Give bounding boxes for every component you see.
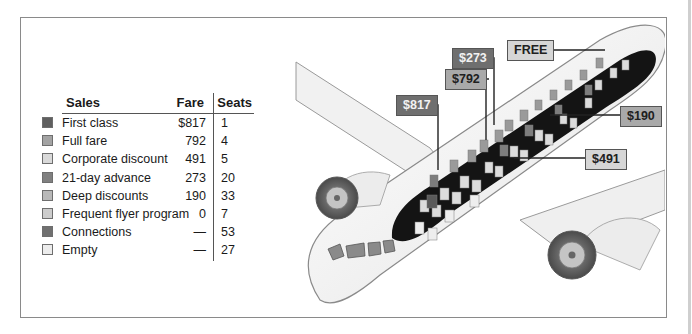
legend-row: First class $817 1: [40, 114, 254, 132]
row-label: Empty: [62, 243, 97, 257]
row-seats: 33: [221, 189, 235, 203]
swatch-connections-icon: [42, 226, 53, 237]
row-seats: 7: [221, 207, 228, 221]
swatch-21-day-advance-icon: [42, 172, 53, 183]
row-label: 21-day advance: [62, 171, 151, 185]
row-fare: 792: [185, 134, 206, 148]
legend-header-row: Sales Fare Seats: [62, 93, 254, 114]
legend-row: Corporate discount 491 5: [40, 150, 254, 168]
row-seats: 27: [221, 243, 235, 257]
row-seats: 53: [221, 225, 235, 239]
row-label: Deep discounts: [62, 189, 148, 203]
row-label: Frequent flyer program: [62, 207, 189, 221]
callout-21-day-advance: $273: [452, 48, 494, 69]
header-fare: Fare: [177, 95, 204, 110]
row-label: Corporate discount: [62, 152, 168, 166]
row-fare: 491: [185, 152, 206, 166]
swatch-empty-icon: [42, 244, 53, 255]
row-seats: 20: [221, 171, 235, 185]
legend-row: Frequent flyer program 0 7: [40, 205, 254, 223]
swatch-deep-discounts-icon: [42, 190, 53, 201]
legend-row: Deep discounts 190 33: [40, 187, 254, 205]
callout-first-class: $817: [396, 95, 438, 116]
swatch-first-class-icon: [42, 117, 53, 128]
header-seats: Seats: [217, 95, 252, 110]
callout-deep-discounts: $190: [620, 106, 662, 127]
row-fare: —: [194, 225, 207, 239]
callout-corporate-discount: $491: [585, 149, 627, 170]
swatch-frequent-flyer-icon: [42, 208, 53, 219]
legend-row: Full fare 792 4: [40, 132, 254, 150]
callout-full-fare: $792: [445, 69, 487, 90]
legend-row: Connections — 53: [40, 223, 254, 241]
row-seats: 1: [221, 116, 228, 130]
sales-legend-table: Sales Fare Seats First class $817 1 Full…: [40, 93, 254, 260]
legend-row: Empty — 27: [40, 241, 254, 259]
legend-row: 21-day advance 273 20: [40, 169, 254, 187]
header-sales: Sales: [66, 95, 100, 110]
row-fare: 190: [185, 189, 206, 203]
row-fare: 0: [199, 207, 206, 221]
callout-frequent-flyer-free: FREE: [507, 40, 554, 61]
row-fare: $817: [178, 116, 206, 130]
row-label: First class: [62, 116, 118, 130]
swatch-corporate-discount-icon: [42, 153, 53, 164]
row-seats: 5: [221, 152, 228, 166]
swatch-full-fare-icon: [42, 135, 53, 146]
row-label: Connections: [62, 225, 132, 239]
row-fare: —: [194, 243, 207, 257]
row-seats: 4: [221, 134, 228, 148]
row-fare: 273: [185, 171, 206, 185]
row-label: Full fare: [62, 134, 107, 148]
